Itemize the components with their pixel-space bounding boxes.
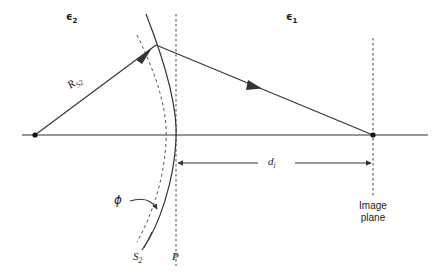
- incident-ray-arrowhead: [136, 48, 152, 64]
- epsilon-2-subscript: 2: [72, 17, 77, 25]
- image-point-dot: [370, 132, 375, 137]
- surface-label-s2: S2: [133, 250, 142, 266]
- s2-leader-line: [144, 232, 152, 248]
- vertex-plane-label-p: P: [172, 250, 179, 263]
- medium-label-epsilon-1: ϵ1: [286, 11, 297, 25]
- optics-diagram-figure: ϵ2 ϵ1 RS2 di ϕ S2 P Image plane: [0, 0, 444, 276]
- sag-angle-label-phi: ϕ: [114, 194, 122, 208]
- object-point-dot: [32, 132, 37, 137]
- medium-label-epsilon-2: ϵ2: [66, 11, 77, 25]
- image-plane-label: Image plane: [350, 200, 396, 223]
- image-plane-label-line1: Image: [350, 200, 396, 212]
- epsilon-1-subscript: 1: [292, 17, 297, 25]
- image-distance-label-di: di: [268, 155, 276, 171]
- surface-subscript: 2: [139, 256, 143, 265]
- image-plane-label-line2: plane: [350, 212, 396, 224]
- surface-s2-curve: [142, 14, 176, 250]
- phi-symbol: ϕ: [114, 193, 122, 207]
- phi-pointer-arrow: [130, 199, 157, 209]
- refracted-ray-arrowhead: [246, 80, 262, 90]
- image-distance-subscript: i: [274, 161, 276, 170]
- vertex-plane-symbol: P: [172, 250, 179, 262]
- diagram-canvas: [0, 0, 444, 276]
- refracted-ray: [156, 45, 373, 135]
